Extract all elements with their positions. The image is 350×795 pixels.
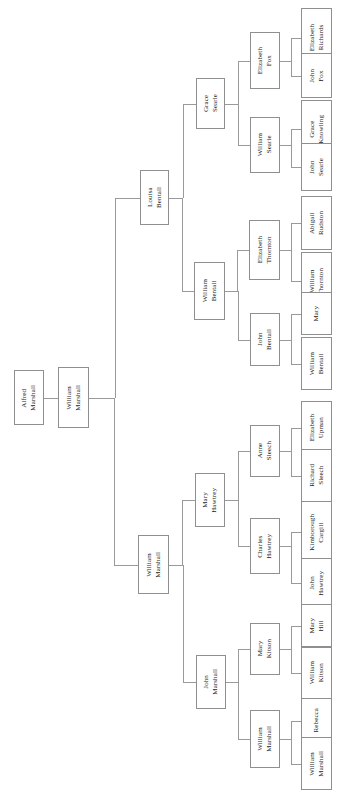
tree-edge-segment xyxy=(291,314,292,340)
tree-node-label: John Searle xyxy=(308,158,326,176)
tree-edge-segment xyxy=(89,398,114,399)
tree-edge-segment xyxy=(238,649,239,682)
tree-node[interactable]: Elizabeth Upman xyxy=(301,401,332,454)
tree-node[interactable]: John Hawtrey xyxy=(301,558,332,608)
tree-node[interactable]: Mary xyxy=(301,292,332,335)
tree-node[interactable]: Abigail Rudston xyxy=(301,196,332,250)
tree-edge-segment xyxy=(291,223,301,224)
tree-node-label: Grace Searle xyxy=(202,94,220,112)
tree-node[interactable]: Anne Sleech xyxy=(250,425,280,477)
tree-node[interactable]: Elizabeth Fox xyxy=(250,32,280,89)
tree-node-label: John Fox xyxy=(308,69,326,83)
tree-edge-segment xyxy=(169,565,183,566)
tree-edge-segment xyxy=(291,38,301,39)
tree-edge-segment xyxy=(291,129,292,145)
tree-edge-segment xyxy=(291,583,301,584)
tree-node[interactable]: William Kitson xyxy=(301,647,332,699)
tree-node[interactable]: Charles Hawtrey xyxy=(250,518,280,574)
tree-node[interactable]: Mary Hill xyxy=(301,604,332,647)
tree-edge-segment xyxy=(291,476,301,477)
tree-edge-segment xyxy=(291,314,301,315)
tree-edge-segment xyxy=(225,291,238,292)
tree-edge-segment xyxy=(291,546,292,583)
tree-edge-segment xyxy=(280,739,291,740)
tree-node-label: William Searle xyxy=(256,133,274,156)
tree-node[interactable]: William Bentall xyxy=(301,337,332,390)
tree-node[interactable]: William Marshall xyxy=(250,710,280,768)
tree-node[interactable]: John Bentall xyxy=(250,313,280,366)
tree-edge-segment xyxy=(280,250,291,251)
tree-node[interactable]: William Marshall xyxy=(301,737,332,790)
tree-node-label: John Bentall xyxy=(256,329,274,350)
family-tree-diagram: Alfred MarshallWilliam MarshallLouisa Be… xyxy=(0,0,350,795)
tree-edge-segment xyxy=(182,198,183,291)
tree-edge-segment xyxy=(291,61,292,76)
tree-node-label: Elizabeth Fox xyxy=(256,47,274,74)
tree-edge-segment xyxy=(291,250,292,281)
tree-edge-segment xyxy=(115,198,116,398)
tree-node[interactable]: John Searle xyxy=(301,143,332,191)
tree-node[interactable]: William Bentall xyxy=(194,262,225,320)
tree-edge-segment xyxy=(238,145,250,146)
tree-edge-segment xyxy=(291,721,301,722)
tree-edge-segment xyxy=(280,451,291,452)
tree-edge-segment xyxy=(238,61,239,104)
tree-node-label: John Marshall xyxy=(202,669,220,695)
tree-edge-segment xyxy=(238,739,250,740)
tree-node[interactable]: Louisa Bentall xyxy=(140,170,169,225)
tree-node[interactable]: John Fox xyxy=(301,53,332,98)
tree-edge-segment xyxy=(291,281,301,282)
tree-node[interactable]: Grace Searle xyxy=(196,78,225,129)
tree-edge-segment xyxy=(238,682,239,739)
tree-node[interactable]: Kimborough Cargill xyxy=(301,501,332,563)
tree-edge-segment xyxy=(238,546,250,547)
tree-edge-segment xyxy=(183,104,196,105)
tree-node[interactable]: Elizabeth Thornton xyxy=(249,220,280,280)
tree-edge-segment xyxy=(291,626,301,627)
tree-edge-segment xyxy=(291,167,301,168)
tree-edge-segment xyxy=(291,451,292,476)
tree-node-label: Mary Hawtrey xyxy=(201,488,219,513)
tree-edge-segment xyxy=(238,649,250,650)
tree-node[interactable]: Alfred Marshall xyxy=(14,370,44,425)
tree-node[interactable]: Richard Sleech xyxy=(301,449,332,502)
tree-edge-segment xyxy=(291,428,301,429)
tree-edge-segment xyxy=(291,532,301,533)
tree-edge-segment xyxy=(225,500,238,501)
tree-node[interactable]: Mary Kitson xyxy=(250,623,280,675)
tree-edge-segment xyxy=(291,38,292,61)
tree-node[interactable]: John Marshall xyxy=(196,655,226,709)
tree-edge-segment xyxy=(291,145,292,167)
tree-node-label: Elizabeth Upman xyxy=(308,414,326,441)
tree-node[interactable]: William Marshall xyxy=(138,535,169,594)
tree-edge-segment xyxy=(291,739,292,764)
tree-node-label: Mary xyxy=(312,306,321,322)
tree-edge-segment xyxy=(44,398,51,399)
tree-node-label: Alfred Marshall xyxy=(20,385,38,411)
tree-node-label: William Bentall xyxy=(201,279,219,302)
tree-edge-segment xyxy=(226,682,238,683)
tree-edge-segment xyxy=(291,223,292,250)
tree-edge-segment xyxy=(280,61,291,62)
tree-edge-segment xyxy=(237,250,238,291)
tree-edge-segment xyxy=(182,500,183,565)
tree-edge-segment xyxy=(238,104,239,145)
tree-node-label: William Marshall xyxy=(65,385,83,411)
tree-node-label: Mary Kitson xyxy=(256,639,274,658)
tree-node-label: Elizabeth Thornton xyxy=(256,236,274,263)
tree-edge-segment xyxy=(291,76,301,77)
tree-node-label: William Kitson xyxy=(308,661,326,684)
tree-edge-segment xyxy=(291,626,292,649)
tree-edge-segment xyxy=(183,104,184,198)
tree-edge-segment xyxy=(280,649,291,650)
tree-node-label: Kimborough Cargill xyxy=(308,514,326,551)
tree-edge-segment xyxy=(291,428,292,451)
tree-edge-segment xyxy=(237,250,249,251)
tree-edge-segment xyxy=(291,129,301,130)
tree-edge-segment xyxy=(115,198,140,199)
tree-edge-segment xyxy=(238,291,239,340)
tree-node[interactable]: Mary Hawtrey xyxy=(195,473,225,527)
tree-edge-segment xyxy=(114,565,138,566)
tree-node[interactable]: William Marshall xyxy=(58,367,89,428)
tree-node[interactable]: William Searle xyxy=(250,117,280,173)
